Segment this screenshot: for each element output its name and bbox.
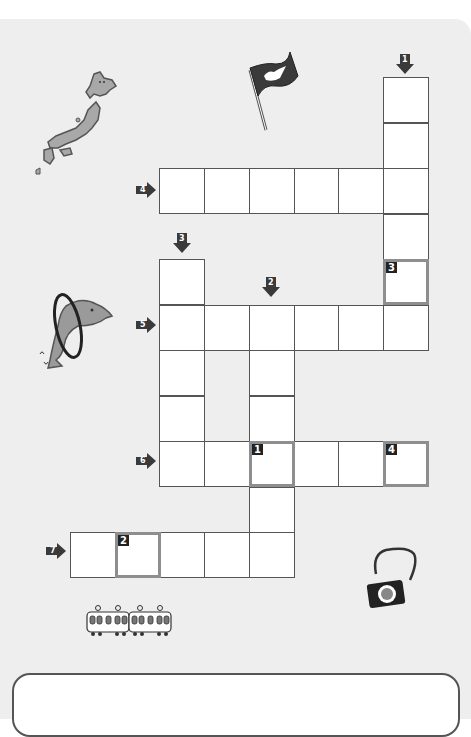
crossword-cell[interactable] [338, 441, 384, 487]
crossword-cell[interactable] [383, 123, 429, 169]
crossword-cell[interactable] [204, 532, 250, 578]
clue-arrow-across-5: 5 [136, 317, 156, 337]
flag-with-dove-icon [246, 48, 306, 132]
clue-number: 3 [179, 235, 185, 243]
japan-map-icon [30, 68, 120, 178]
camera-icon [360, 544, 430, 614]
crossword-cell[interactable] [70, 532, 116, 578]
crossword-cell[interactable] [383, 305, 429, 351]
crossword-cell[interactable]: 4 [383, 441, 429, 487]
crossword-cell[interactable] [383, 168, 429, 214]
crossword-cell[interactable] [204, 168, 250, 214]
crossword-cell[interactable]: 2 [115, 532, 161, 578]
clue-arrow-across-7: 7 [46, 543, 66, 563]
crossword-cell[interactable] [249, 305, 295, 351]
clue-number: 5 [140, 321, 146, 329]
answer-box[interactable] [12, 673, 460, 737]
crossword-cell[interactable] [383, 77, 429, 123]
cell-number-tag: 1 [252, 444, 263, 455]
crossword-cell[interactable] [159, 305, 205, 351]
crossword-cell[interactable] [204, 305, 250, 351]
crossword-cell[interactable]: 3 [383, 259, 429, 305]
crossword-cell[interactable] [249, 168, 295, 214]
crossword-cell[interactable] [249, 487, 295, 533]
crossword-cell[interactable] [159, 350, 205, 396]
clue-arrow-down-2: 2 [262, 277, 280, 301]
crossword-cell[interactable] [294, 305, 340, 351]
crossword-cell[interactable] [249, 396, 295, 442]
crossword-cell[interactable] [294, 168, 340, 214]
clue-number: 7 [50, 547, 56, 555]
crossword-cell[interactable] [204, 441, 250, 487]
train-icon [84, 604, 174, 640]
clue-arrow-down-3: 3 [173, 233, 191, 257]
clue-number: 6 [140, 457, 146, 465]
cell-number-tag: 2 [118, 535, 129, 546]
crossword-cell[interactable] [383, 214, 429, 260]
crossword-cell[interactable]: 1 [249, 441, 295, 487]
crossword-cell[interactable] [159, 441, 205, 487]
crossword-cell[interactable] [159, 259, 205, 305]
crossword-cell[interactable] [338, 305, 384, 351]
clue-arrow-across-6: 6 [136, 453, 156, 473]
crossword-cell[interactable] [249, 350, 295, 396]
crossword-cell[interactable] [294, 441, 340, 487]
clue-arrow-across-4: 4 [136, 182, 156, 202]
cell-number-tag: 3 [386, 262, 397, 273]
clue-arrow-down-1: 1 [396, 54, 414, 78]
crossword-cell[interactable] [159, 396, 205, 442]
crossword-cell[interactable] [159, 168, 205, 214]
clue-number: 1 [402, 56, 408, 64]
crossword-cell[interactable] [338, 168, 384, 214]
clue-number: 2 [268, 279, 274, 287]
crossword-cell[interactable] [159, 532, 205, 578]
dolphin-hoop-icon [36, 286, 116, 376]
clue-number: 4 [140, 186, 146, 194]
crossword-cell[interactable] [249, 532, 295, 578]
cell-number-tag: 4 [386, 444, 397, 455]
